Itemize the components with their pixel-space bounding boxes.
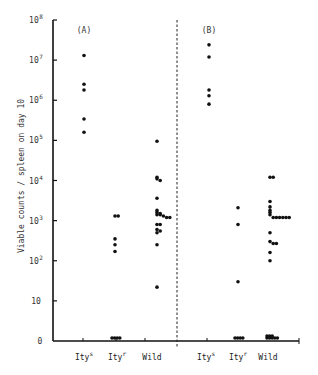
data-point xyxy=(268,213,272,217)
y-tick-label: 0 xyxy=(38,337,43,346)
data-point xyxy=(82,130,86,134)
data-point xyxy=(268,205,272,209)
category-label: Itys xyxy=(197,350,215,362)
data-point xyxy=(158,229,162,233)
data-point xyxy=(162,214,166,218)
category-label: Wild xyxy=(142,353,161,362)
panel-label: (B) xyxy=(202,26,216,35)
data-point xyxy=(236,280,240,284)
panels: (A)ItysItyrWild(B)ItysItyrWild xyxy=(75,26,291,362)
data-point xyxy=(155,213,159,217)
data-point xyxy=(268,251,272,255)
y-tick-label: 103 xyxy=(29,214,43,226)
data-point xyxy=(82,82,86,86)
data-point xyxy=(113,214,117,218)
y-tick-exponent: 4 xyxy=(39,174,43,181)
data-point xyxy=(207,102,211,106)
panel-a: (A)ItysItyrWild xyxy=(75,26,172,362)
y-tick-exponent: 2 xyxy=(39,254,43,261)
data-point xyxy=(113,243,117,247)
data-point xyxy=(275,216,279,220)
scatter-chart: 010102103104105106107108 (A)ItysItyrWild… xyxy=(0,0,318,375)
data-point xyxy=(155,223,159,227)
data-point xyxy=(155,228,159,232)
data-point xyxy=(168,216,172,220)
data-point xyxy=(287,216,291,220)
data-point xyxy=(207,88,211,92)
y-tick-exponent: 7 xyxy=(39,53,43,60)
data-point xyxy=(268,259,272,263)
data-point xyxy=(268,200,272,204)
data-point xyxy=(268,240,272,244)
data-point xyxy=(278,216,282,220)
data-point xyxy=(271,242,275,246)
data-point xyxy=(158,179,162,183)
data-point xyxy=(165,216,169,220)
data-point xyxy=(236,206,240,210)
y-tick-label: 106 xyxy=(29,93,43,105)
data-point xyxy=(268,231,272,235)
data-point xyxy=(158,223,162,227)
data-point xyxy=(82,54,86,58)
data-point xyxy=(82,88,86,92)
data-point xyxy=(155,139,159,143)
y-tick-label: 107 xyxy=(29,53,43,65)
category-label: Itys xyxy=(75,350,93,362)
y-tick-label: 102 xyxy=(29,254,43,266)
y-tick-exponent: 3 xyxy=(39,214,43,221)
panel-label: (A) xyxy=(77,26,91,35)
y-tick-label: 108 xyxy=(29,13,43,25)
data-point xyxy=(113,237,117,241)
data-point xyxy=(158,213,162,217)
category-superscript: r xyxy=(122,350,126,357)
data-point xyxy=(241,336,245,340)
data-point xyxy=(155,231,159,235)
category-label: Wild xyxy=(258,353,277,362)
data-point xyxy=(284,216,288,220)
y-tick-exponent: 8 xyxy=(39,13,43,20)
data-point xyxy=(155,177,159,181)
category-superscript: s xyxy=(89,350,93,357)
category-label: Ityr xyxy=(108,350,126,362)
data-point xyxy=(118,336,122,340)
y-tick-exponent: 5 xyxy=(39,133,43,140)
axes xyxy=(53,20,299,347)
data-point xyxy=(270,334,274,338)
data-point xyxy=(207,43,211,47)
data-point xyxy=(271,216,275,220)
category-label: Ityr xyxy=(229,350,247,362)
panel-b: (B)ItysItyrWild xyxy=(197,26,291,362)
data-point xyxy=(82,117,86,121)
category-superscript: r xyxy=(243,350,247,357)
data-point xyxy=(113,250,117,254)
data-point xyxy=(207,55,211,59)
data-point xyxy=(207,94,211,98)
y-tick-label: 104 xyxy=(29,174,43,186)
y-axis-label: Viable counts / spleen on day 10 xyxy=(17,99,26,253)
y-tick-exponent: 6 xyxy=(39,93,43,100)
y-tick-label: 105 xyxy=(29,133,43,145)
data-point xyxy=(155,285,159,289)
data-point xyxy=(275,242,279,246)
data-point xyxy=(155,197,159,201)
y-tick-label: 10 xyxy=(31,297,41,306)
data-point xyxy=(268,176,272,180)
data-point xyxy=(271,176,275,180)
data-point xyxy=(281,216,285,220)
category-superscript: s xyxy=(211,350,215,357)
data-point xyxy=(276,336,280,340)
data-point xyxy=(236,223,240,227)
data-point xyxy=(116,214,120,218)
data-point xyxy=(155,243,159,247)
